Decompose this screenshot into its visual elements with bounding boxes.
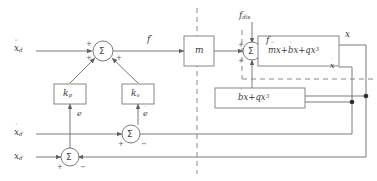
- accel-ref-glyph: x¨: [14, 44, 19, 53]
- vel-ref-label: x˙d: [14, 128, 23, 137]
- velocity-out-label: x˙: [330, 62, 335, 70]
- sign-force-summer-left: +: [238, 42, 244, 49]
- pos-error-label: e: [77, 110, 82, 118]
- control-force-label: f′: [147, 35, 152, 44]
- accel-summer-symbol: Σ: [99, 46, 105, 56]
- total-force-label: f: [266, 36, 269, 45]
- kp-block-label: kp: [63, 89, 72, 98]
- sign-vel-summer-left: +: [118, 141, 124, 148]
- sign-force-summer-bottom: +: [238, 58, 244, 65]
- sign-accel-summer-top: +: [86, 41, 92, 48]
- junction-dot-x: [364, 94, 369, 99]
- sign-vel-summer-right: −: [141, 141, 147, 148]
- feedback-block-label: b˙x+qx3: [238, 93, 269, 102]
- force-summer-symbol: Σ: [248, 46, 254, 56]
- pos-ref-label: xd: [14, 152, 23, 161]
- sign-pos-summer-left: +: [57, 164, 63, 171]
- vel-ref-glyph: x˙: [14, 128, 19, 137]
- junction-dot-xdot: [350, 100, 355, 105]
- vel-error-label: e˙: [143, 110, 148, 118]
- pos-error-summer-symbol: Σ: [66, 152, 72, 162]
- vel-error-glyph: e˙: [143, 110, 148, 118]
- diagram-vector-layer: [0, 0, 377, 181]
- block-diagram-canvas: Σ Σ Σ Σ x¨d x˙d xd fdis f′ f e e˙ x x˙ k…: [0, 0, 377, 181]
- mass-block-label: m: [195, 46, 204, 55]
- plant-block-label: m¨x+b˙x+qx3: [268, 46, 319, 55]
- kv-block-label: kv: [131, 89, 140, 98]
- sign-accel-summer-right: +: [116, 55, 122, 62]
- sign-accel-summer-left: +: [86, 55, 92, 62]
- accel-ref-label: x¨d: [14, 44, 23, 53]
- velocity-out-glyph: x˙: [330, 62, 335, 70]
- disturbance-label: fdis: [239, 11, 250, 20]
- vel-error-summer-symbol: Σ: [127, 129, 133, 139]
- position-out-label: x: [345, 30, 350, 39]
- sign-pos-summer-right: −: [80, 164, 86, 171]
